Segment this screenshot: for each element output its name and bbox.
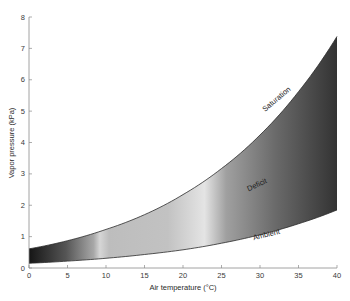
y-tick-label: 5 bbox=[21, 107, 25, 116]
y-axis: 012345678 bbox=[21, 13, 32, 273]
y-tick-label: 8 bbox=[21, 13, 25, 22]
y-tick-label: 6 bbox=[21, 75, 25, 84]
y-tick-label: 7 bbox=[21, 44, 25, 53]
y-tick-label: 2 bbox=[21, 201, 25, 210]
y-tick-label: 0 bbox=[21, 264, 25, 273]
x-tick-label: 0 bbox=[27, 271, 31, 280]
y-axis-label: Vapor pressure (kPa) bbox=[7, 107, 16, 178]
deficit-fill-area bbox=[29, 36, 337, 263]
y-tick-label: 4 bbox=[21, 138, 25, 147]
x-tick-label: 35 bbox=[294, 271, 302, 280]
x-tick-label: 30 bbox=[256, 271, 264, 280]
x-axis-label: Air temperature (°C) bbox=[149, 283, 217, 292]
y-tick-label: 1 bbox=[21, 232, 25, 241]
y-tick-label: 3 bbox=[21, 169, 25, 178]
plot-area bbox=[29, 36, 337, 263]
x-tick-label: 15 bbox=[140, 271, 148, 280]
x-tick-label: 20 bbox=[179, 271, 187, 280]
vapor-pressure-chart: 012345678 0510152025303540 Air temperatu… bbox=[0, 0, 350, 301]
x-tick-label: 25 bbox=[217, 271, 225, 280]
x-tick-label: 40 bbox=[333, 271, 341, 280]
x-axis: 0510152025303540 bbox=[27, 265, 341, 280]
x-tick-label: 10 bbox=[102, 271, 110, 280]
x-tick-label: 5 bbox=[65, 271, 69, 280]
